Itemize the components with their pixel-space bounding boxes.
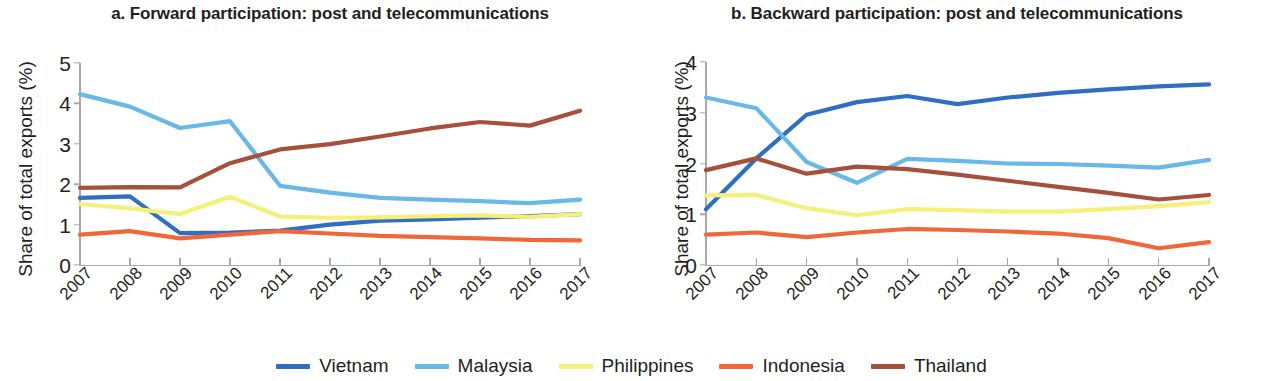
x-tick-label: 2010 [197, 263, 246, 312]
y-tick-label: 1 [685, 204, 697, 225]
legend-swatch-icon [276, 364, 310, 369]
legend-label: Vietnam [319, 355, 388, 377]
x-tick-label: 2017 [547, 263, 596, 312]
y-tick-label: 3 [685, 102, 697, 123]
x-tick-label: 2011 [247, 263, 296, 312]
figure-container: a. Forward participation: post and telec… [0, 0, 1263, 381]
y-tick-label: 4 [59, 93, 71, 114]
x-tick-label: 2015 [447, 263, 496, 312]
x-tick-label: 2013 [347, 263, 396, 312]
legend-swatch-icon [871, 364, 905, 369]
y-tick-mark [74, 183, 80, 184]
y-tick-label: 2 [685, 153, 697, 174]
legend-label: Thailand [914, 355, 987, 377]
y-tick-label: 3 [59, 133, 71, 154]
x-tick-label: 2008 [97, 263, 146, 312]
y-tick-mark [700, 61, 706, 62]
series-line-thailand [80, 111, 580, 188]
x-tick-label: 2014 [397, 263, 446, 312]
y-tick-mark [74, 224, 80, 225]
series-line-vietnam [706, 84, 1209, 209]
series-line-malaysia [706, 98, 1209, 183]
legend-swatch-icon [719, 364, 753, 369]
y-tick-mark [700, 112, 706, 113]
legend-swatch-icon [559, 364, 593, 369]
panel-b-plot-area: 0123420072008200920102011201220132014201… [706, 62, 1209, 265]
panel-a-series-layer [80, 63, 580, 265]
legend-swatch-icon [415, 364, 449, 369]
x-tick-label: 2007 [47, 263, 96, 312]
legend-label: Malaysia [458, 355, 533, 377]
panel-a: a. Forward participation: post and telec… [0, 0, 632, 340]
panel-a-title: a. Forward participation: post and telec… [0, 4, 646, 24]
x-tick-label: 2009 [147, 263, 196, 312]
y-tick-label: 0 [685, 255, 697, 276]
y-tick-label: 2 [59, 174, 71, 195]
y-tick-mark [74, 62, 80, 63]
y-tick-mark [700, 163, 706, 164]
series-line-indonesia [80, 231, 580, 240]
legend-item-thailand[interactable]: Thailand [871, 355, 987, 377]
y-tick-mark [74, 103, 80, 104]
y-tick-label: 1 [59, 214, 71, 235]
y-tick-mark [700, 214, 706, 215]
legend-item-indonesia[interactable]: Indonesia [719, 355, 844, 377]
panel-b-title: b. Backward participation: post and tele… [631, 4, 1263, 24]
legend-item-philippines[interactable]: Philippines [559, 355, 694, 377]
y-tick-label: 5 [59, 53, 71, 74]
legend-label: Indonesia [762, 355, 844, 377]
x-tick-label: 2012 [297, 263, 346, 312]
series-line-indonesia [706, 229, 1209, 248]
panel-a-y-axis-label: Share of total exports (%) [15, 49, 37, 289]
y-tick-mark [74, 143, 80, 144]
panel-a-plot-area: 0123452007200820092010201120122013201420… [80, 63, 580, 265]
legend-item-malaysia[interactable]: Malaysia [415, 355, 533, 377]
panel-b-series-layer [706, 62, 1209, 265]
y-tick-label: 0 [59, 255, 71, 276]
x-tick-label: 2016 [497, 263, 546, 312]
legend-item-vietnam[interactable]: Vietnam [276, 355, 388, 377]
y-tick-label: 4 [685, 52, 697, 73]
legend-label: Philippines [602, 355, 694, 377]
legend: VietnamMalaysiaPhilippinesIndonesiaThail… [0, 355, 1263, 377]
